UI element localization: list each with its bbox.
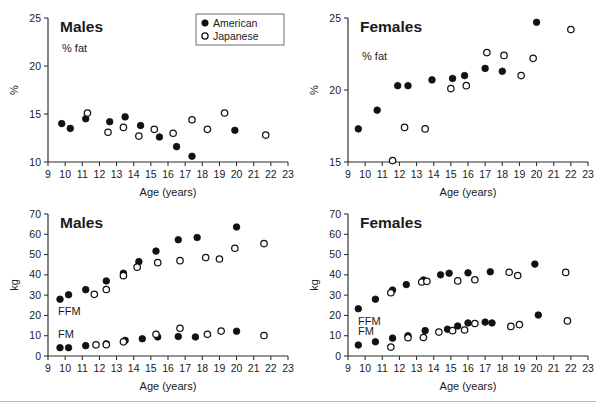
- x-tick-label: 16: [462, 362, 474, 374]
- x-axis-title: Age (years): [440, 186, 497, 198]
- data-point-open: [472, 320, 478, 326]
- y-tick-label: 10: [29, 329, 41, 341]
- data-point-filled: [405, 82, 412, 89]
- data-point-open: [189, 117, 195, 123]
- x-tick-label: 12: [94, 362, 106, 374]
- legend-label: American: [213, 17, 258, 29]
- panel-females-pct-fat: 15202591011121314151617181920212223Age (…: [300, 0, 596, 200]
- x-tick-label: 11: [77, 168, 88, 180]
- data-point-filled: [355, 342, 362, 349]
- x-tick-label: 13: [411, 168, 423, 180]
- data-point-filled: [156, 134, 163, 141]
- panel-title: Males: [60, 18, 103, 35]
- data-point-open: [218, 328, 224, 334]
- data-point-filled: [233, 224, 240, 231]
- x-tick-label: 17: [479, 362, 491, 374]
- data-point-open: [564, 318, 570, 324]
- y-tick-label: 50: [29, 248, 41, 260]
- data-point-filled: [173, 143, 180, 150]
- data-point-open: [261, 332, 267, 338]
- data-point-open: [204, 126, 210, 132]
- x-tick-label: 16: [462, 168, 474, 180]
- data-point-open: [461, 327, 467, 333]
- data-point-open: [170, 130, 176, 136]
- panel-females-body-composition: 0102030405060709101112131415161718192021…: [300, 198, 596, 398]
- data-point-filled: [194, 234, 201, 241]
- x-tick-label: 18: [196, 362, 208, 374]
- data-point-filled: [82, 342, 89, 349]
- x-tick-label: 19: [214, 362, 226, 374]
- data-point-filled: [103, 278, 110, 285]
- figure-root: 1015202591011121314151617181920212223Age…: [0, 0, 596, 404]
- data-point-open: [177, 257, 183, 263]
- x-tick-label: 22: [265, 362, 277, 374]
- data-point-filled: [139, 335, 146, 342]
- y-tick-label: 25: [329, 12, 341, 24]
- panel-males-body-composition: 0102030405060709101112131415161718192021…: [0, 198, 296, 398]
- data-point-filled: [67, 125, 74, 132]
- data-point-open: [436, 329, 442, 335]
- x-tick-label: 20: [231, 168, 243, 180]
- data-point-open: [389, 157, 395, 163]
- y-tick-label: 0: [35, 350, 41, 362]
- data-point-filled: [58, 120, 65, 127]
- x-tick-label: 14: [128, 362, 140, 374]
- y-tick-label: 20: [329, 84, 341, 96]
- data-point-open: [515, 272, 521, 278]
- data-point-open: [401, 124, 407, 130]
- data-point-filled: [535, 312, 542, 319]
- data-point-open: [388, 344, 394, 350]
- chart-females-body-composition: 0102030405060709101112131415161718192021…: [300, 198, 596, 398]
- data-point-open: [103, 286, 109, 292]
- x-tick-label: 14: [428, 168, 440, 180]
- y-tick-label: 20: [329, 309, 341, 321]
- data-point-open: [103, 341, 109, 347]
- series-label-fm: FM: [358, 325, 374, 337]
- panel-males-pct-fat: 1015202591011121314151617181920212223Age…: [0, 0, 296, 200]
- data-point-filled: [389, 335, 396, 342]
- data-point-filled: [372, 296, 379, 303]
- data-point-open: [91, 291, 97, 297]
- x-tick-label: 10: [359, 362, 371, 374]
- data-point-open: [120, 124, 126, 130]
- x-tick-label: 23: [582, 168, 594, 180]
- data-point-filled: [403, 281, 410, 288]
- y-tick-label: 70: [29, 208, 41, 220]
- x-tick-label: 13: [111, 362, 123, 374]
- legend-marker-open: [202, 33, 208, 39]
- data-point-open: [420, 334, 426, 340]
- data-point-open: [221, 110, 227, 116]
- panel-title: Males: [60, 214, 103, 231]
- x-tick-label: 19: [514, 362, 526, 374]
- data-point-filled: [487, 269, 494, 276]
- x-tick-label: 15: [445, 168, 457, 180]
- y-tick-label: 10: [29, 156, 41, 168]
- x-tick-label: 20: [531, 362, 543, 374]
- y-tick-label: 60: [29, 228, 41, 240]
- x-tick-label: 21: [548, 362, 560, 374]
- data-point-open: [120, 339, 126, 345]
- data-point-filled: [137, 122, 144, 129]
- x-tick-label: 15: [445, 362, 457, 374]
- panel-title: Females: [360, 18, 422, 35]
- x-tick-label: 16: [162, 168, 174, 180]
- data-point-filled: [175, 333, 182, 340]
- data-point-filled: [57, 296, 64, 303]
- data-point-open: [422, 126, 428, 132]
- y-tick-label: 40: [329, 268, 341, 280]
- x-tick-label: 17: [179, 168, 191, 180]
- x-tick-label: 12: [394, 362, 406, 374]
- data-point-filled: [122, 114, 129, 121]
- x-tick-label: 22: [565, 362, 577, 374]
- data-point-open: [105, 129, 111, 135]
- x-tick-label: 9: [45, 362, 51, 374]
- data-point-open: [518, 72, 524, 78]
- y-tick-label: 70: [329, 208, 341, 220]
- x-tick-label: 10: [59, 168, 71, 180]
- data-point-filled: [437, 272, 444, 279]
- data-point-open: [93, 342, 99, 348]
- x-tick-label: 9: [45, 168, 51, 180]
- figure-bottom-divider: [0, 401, 596, 402]
- data-point-open: [263, 132, 269, 138]
- series-label-fm: FM: [58, 328, 74, 340]
